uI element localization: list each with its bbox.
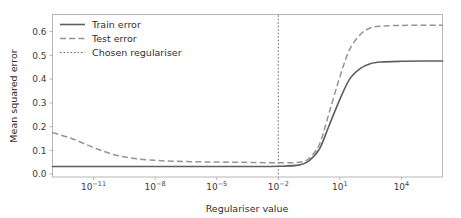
legend-label-train-error: Train error [91,19,141,30]
y-tick-label: 0.3 [32,98,46,108]
y-tick-label: 0.4 [32,74,47,84]
y-axis-title: Mean squared error [8,49,19,142]
legend-label-chosen-regulariser: Chosen regulariser [92,47,182,58]
error-vs-regulariser-chart: 0.00.10.20.30.40.50.6 10−1110−810−510−21… [0,0,461,218]
figure-background [0,0,461,218]
y-tick-label: 0.5 [32,51,46,61]
x-axis-title: Regulariser value [206,203,289,214]
y-tick-label: 0.2 [32,122,46,132]
legend-label-test-error: Test error [91,33,137,44]
y-tick-label: 0.0 [32,169,47,179]
y-tick-label: 0.1 [32,146,46,156]
chart-figure: 0.00.10.20.30.40.50.6 10−1110−810−510−21… [0,0,461,218]
y-tick-label: 0.6 [32,27,47,37]
